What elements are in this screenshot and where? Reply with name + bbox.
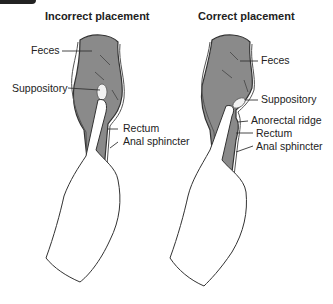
left-suppository xyxy=(97,84,107,100)
label-suppository-right: Suppository xyxy=(261,93,316,105)
label-anal-sphincter-right: Anal sphincter xyxy=(256,140,323,152)
label-anorectal-ridge: Anorectal ridge xyxy=(251,114,322,126)
label-feces-left: Feces xyxy=(31,44,60,56)
panel-title-correct: Correct placement xyxy=(198,10,295,22)
label-rectum-right: Rectum xyxy=(256,127,292,139)
label-suppository-left: Suppository xyxy=(12,82,67,94)
panel-title-incorrect: Incorrect placement xyxy=(45,10,150,22)
label-rectum-left: Rectum xyxy=(123,122,159,134)
label-anal-sphincter-left: Anal sphincter xyxy=(123,135,190,147)
label-feces-right: Feces xyxy=(261,54,290,66)
